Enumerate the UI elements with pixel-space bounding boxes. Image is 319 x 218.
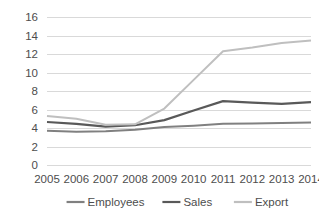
y-axis-tick-label: 0 [32, 159, 38, 171]
chart-background [0, 0, 319, 218]
y-axis-tick-label: 10 [25, 67, 38, 79]
chart-canvas: 0246810121416 20052006200720082009201020… [0, 0, 319, 218]
x-axis-tick-label: 2011 [211, 173, 236, 185]
x-axis-tick-label: 2014 [298, 173, 319, 185]
y-axis-tick-label: 12 [25, 48, 38, 60]
x-axis-tick-label: 2009 [152, 173, 178, 185]
x-axis-tick-labels: 2005200620072008200920102011201220132014 [34, 173, 319, 185]
line-chart: 0246810121416 20052006200720082009201020… [0, 0, 319, 218]
y-axis-tick-label: 6 [32, 104, 38, 116]
y-axis-tick-label: 8 [32, 85, 38, 97]
x-axis-tick-label: 2010 [181, 173, 207, 185]
legend-label-sales: Sales [183, 196, 212, 208]
x-axis-tick-label: 2005 [34, 173, 60, 185]
y-axis-tick-label: 16 [25, 11, 38, 23]
x-axis-tick-label: 2006 [64, 173, 90, 185]
y-axis-tick-label: 4 [32, 122, 39, 134]
x-axis-tick-label: 2013 [269, 173, 295, 185]
x-axis-tick-label: 2012 [240, 173, 266, 185]
x-axis-tick-label: 2008 [122, 173, 148, 185]
x-axis-tick-label: 2007 [93, 173, 119, 185]
legend-label-export: Export [255, 196, 289, 208]
y-axis-tick-label: 14 [25, 30, 38, 42]
y-axis-tick-label: 2 [32, 141, 38, 153]
legend-label-employees: Employees [88, 196, 145, 208]
